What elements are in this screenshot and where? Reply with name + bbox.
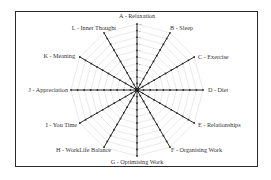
tick-label: 8 [139,36,141,39]
axis-tick-marker [202,89,204,91]
axis-tick-marker [123,89,125,91]
axis-tick-marker [136,63,138,65]
axis-tick-marker [182,63,184,65]
axis-tick-marker [110,89,112,91]
axis-tick-marker [130,86,132,88]
axis-tick-marker [176,112,178,114]
axis-tick-marker [149,112,151,114]
axis-tick-marker [102,69,104,71]
axis-tick-marker [113,49,115,51]
axis-tick-marker [142,92,144,94]
axis-tick-marker [113,129,115,131]
radar-center-point [135,88,139,92]
axis-tick-marker [182,89,184,91]
axis-tick-marker [182,116,184,118]
axis-tick-marker [136,109,138,111]
axis-tick-marker [163,43,165,45]
axis-tick-marker [159,76,161,78]
axis-tick-marker [133,83,135,85]
axis-tick-marker [156,55,158,57]
axis-tick-marker [130,89,132,91]
axis-tick-marker [110,43,112,45]
axis-tick-marker [136,83,138,85]
axis-tick-marker [143,78,145,80]
axis-tick-marker [189,89,191,91]
axis-tick-marker [153,99,155,101]
axis-tick-marker [96,112,98,114]
axis-label-l: L - Inner Thought [72,24,116,31]
axis-tick-marker [136,102,138,104]
axis-tick-marker [169,89,171,91]
axis-tick-marker [119,99,121,101]
axis-tick-marker [79,122,81,124]
axis-tick-marker [116,55,118,57]
axis-tick-marker [159,129,161,131]
axis-tick-marker [169,32,171,34]
axis-tick-marker [165,106,167,108]
axis-tick-marker [176,66,178,68]
axis-tick-marker [130,78,132,80]
axis-tick-marker [116,123,118,125]
axis-tick-marker [136,56,138,58]
axis-label-i: I - You Time [46,121,78,128]
axis-tick-marker [130,92,132,94]
axis-tick-marker [85,59,87,61]
axis-tick-marker [136,129,138,131]
tick-label: 9 [139,30,141,33]
axis-tick-marker [123,112,125,114]
axis-tick-marker [90,63,92,65]
axis-tick-marker [153,61,155,63]
tick-label: 10 [139,23,142,26]
axis-label-h: H - WorkLife Balance [56,146,111,153]
tick-label: 6 [139,49,141,52]
axis-tick-marker [113,76,115,78]
radar-tick-labels: 12345678910 [139,23,142,85]
tick-label: 5 [139,56,141,59]
axis-tick-marker [143,89,145,91]
axis-label-d: D - Diet [208,86,229,93]
tick-label: 3 [139,69,141,72]
tick-label: 4 [139,63,141,66]
axis-label-c: C - Exercise [198,53,229,60]
axis-tick-marker [153,118,155,120]
axis-tick-marker [148,83,150,85]
axis-tick-marker [103,89,105,91]
axis-tick-marker [193,56,195,58]
axis-tick-marker [142,86,144,88]
axis-tick-marker [125,96,127,98]
axis-tick-marker [136,30,138,32]
tick-label: 2 [139,76,141,79]
axis-tick-marker [136,43,138,45]
axis-tick-marker [116,89,118,91]
axis-tick-marker [119,79,121,81]
axis-label-b: B - Sleep [170,24,193,31]
axis-label-j: J - Appreciation [28,86,68,93]
axis-tick-marker [139,95,141,97]
axis-tick-marker [136,155,138,157]
axis-tick-marker [113,102,115,104]
radar-chart: 12345678910 A - RelaxationB - SleepC - E… [0,0,271,180]
axis-tick-marker [108,73,110,75]
axis-tick-marker [163,135,165,137]
axis-tick-marker [90,116,92,118]
axis-tick-marker [106,141,108,143]
axis-tick-marker [97,89,99,91]
axis-label-f: F - Organising Work [171,146,223,153]
axis-tick-marker [120,118,122,120]
axis-tick-marker [136,76,138,78]
axis-tick-marker [146,106,148,108]
axis-tick-marker [136,50,138,52]
axis-tick-marker [149,66,151,68]
axis-tick-marker [106,38,108,40]
axis-tick-marker [96,66,98,68]
axis-tick-marker [126,106,128,108]
axis-tick-marker [149,89,151,91]
axis-tick-marker [103,32,105,34]
axis-tick-marker [153,79,155,81]
axis-tick-marker [188,59,190,61]
axis-tick-marker [77,89,79,91]
axis-tick-marker [170,109,172,111]
axis-tick-marker [176,89,178,91]
axis-tick-marker [148,96,150,98]
axis-tick-marker [130,101,132,103]
